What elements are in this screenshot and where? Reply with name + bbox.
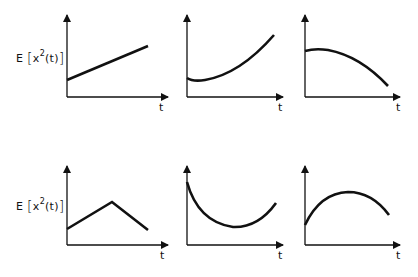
curve bbox=[187, 35, 274, 81]
curve bbox=[305, 192, 389, 225]
panel-u-shaped bbox=[187, 166, 283, 245]
panel-arch bbox=[305, 166, 400, 245]
x-axis-label: t bbox=[160, 249, 164, 262]
plots-canvas bbox=[0, 0, 418, 277]
curve bbox=[67, 46, 148, 80]
panel-linear-increase bbox=[67, 15, 168, 97]
x-axis-label: t bbox=[278, 101, 282, 114]
x-axis-label: t bbox=[396, 249, 400, 262]
panel-convex-increase bbox=[187, 15, 283, 97]
x-axis-label: t bbox=[396, 101, 400, 114]
x-axis-label: t bbox=[278, 249, 282, 262]
x-axis-label: t bbox=[159, 101, 163, 114]
panel-concave-decrease bbox=[305, 15, 400, 97]
mean-square-variation-figure: E [x2(t)] E [x2(t)] bbox=[0, 0, 418, 277]
curve bbox=[67, 202, 148, 230]
curve bbox=[187, 182, 276, 227]
panel-triangular bbox=[67, 166, 168, 245]
curve bbox=[305, 49, 388, 86]
